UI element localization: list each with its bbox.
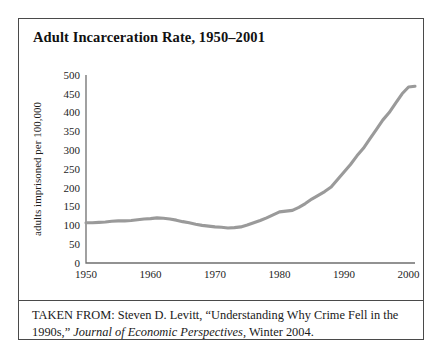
caption-divider [19,300,423,301]
y-tick-150: 150 [64,200,81,212]
y-tick-50: 50 [69,238,81,250]
y-tick-0: 0 [75,257,81,269]
y-tick-450: 450 [64,88,81,100]
figure-caption: TAKEN FROM: Steven D. Levitt, “Understan… [32,307,410,340]
y-tick-300: 300 [64,144,81,156]
x-axis-tick-labels: 195019601970198019902000 [75,268,420,280]
y-tick-350: 350 [64,125,81,137]
chart-axes [86,75,415,263]
y-tick-200: 200 [64,182,81,194]
chart-plot-region: 050100150200250300350400450500 195019601… [19,57,423,292]
y-tick-250: 250 [64,163,81,175]
caption-source-title: Journal of Economic Perspectives [73,325,243,339]
y-tick-100: 100 [64,219,81,231]
x-tick-1960: 1960 [140,268,163,280]
caption-suffix-text: , Winter 2004. [243,325,314,339]
x-tick-2000: 2000 [398,268,421,280]
y-tick-500: 500 [64,69,81,81]
y-axis-title: adults imprisoned per 100,000 [31,102,43,236]
figure-container: Adult Incarceration Rate, 1950–2001 0501… [18,18,424,340]
x-tick-1990: 1990 [333,268,356,280]
incarceration-rate-series [86,86,415,228]
x-tick-1980: 1980 [269,268,292,280]
y-axis-tick-labels: 050100150200250300350400450500 [64,69,81,269]
x-tick-1970: 1970 [204,268,227,280]
x-tick-1950: 1950 [75,268,98,280]
y-tick-400: 400 [64,106,81,118]
incarceration-rate-line-chart: 050100150200250300350400450500 195019601… [19,57,423,292]
figure-title: Adult Incarceration Rate, 1950–2001 [33,29,265,46]
